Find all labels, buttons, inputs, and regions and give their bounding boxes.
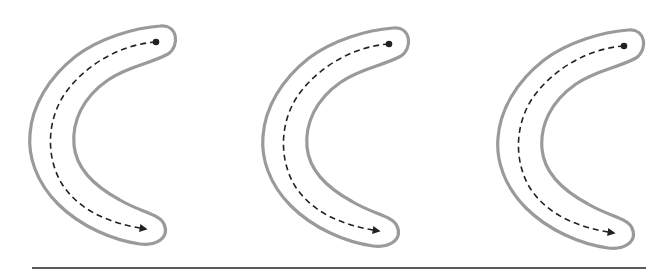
channel-3 [498, 30, 644, 248]
channel-1 [30, 26, 176, 244]
channel-2 [263, 28, 409, 246]
diagram-canvas [0, 0, 671, 280]
